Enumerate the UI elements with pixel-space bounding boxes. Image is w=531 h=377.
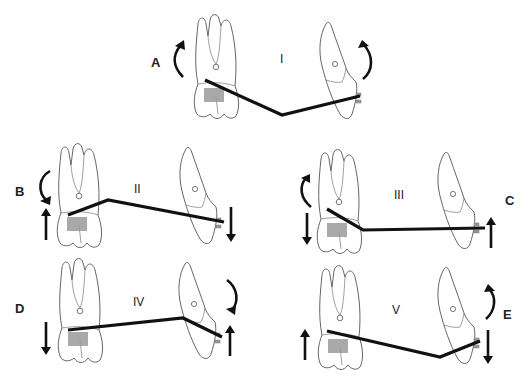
panel-letter-b: B (15, 184, 24, 199)
moment-arrow-cw-icon (227, 280, 236, 310)
canine-tooth (438, 152, 479, 248)
molar-tooth (194, 15, 238, 119)
panel-label-v: V (392, 303, 400, 317)
panel-label-i: I (280, 52, 283, 66)
canine-tooth (179, 262, 220, 358)
panel-v (300, 266, 495, 370)
panel-iv (41, 259, 236, 363)
molar-tooth (317, 150, 361, 254)
panel-i (175, 15, 371, 119)
panel-letter-d: D (15, 301, 24, 316)
panel-label-ii: II (134, 182, 141, 196)
panel-letter-c: C (505, 193, 514, 208)
panel-label-iii: III (394, 188, 404, 202)
canine-tooth (180, 147, 221, 243)
moment-arrow-ccw-icon (175, 46, 183, 77)
molar-tooth (58, 259, 102, 363)
moment-arrow-cw-icon (40, 171, 50, 200)
orthodontic-diagram (0, 0, 531, 377)
molar-tooth (318, 266, 362, 370)
moment-arrow-ccw-icon (486, 290, 494, 319)
molar-tooth (57, 144, 101, 248)
panel-label-iv: IV (133, 295, 144, 309)
panel-letter-e: E (503, 307, 512, 322)
panel-letter-a: A (151, 55, 160, 70)
moment-arrow-cw-icon (363, 45, 371, 79)
